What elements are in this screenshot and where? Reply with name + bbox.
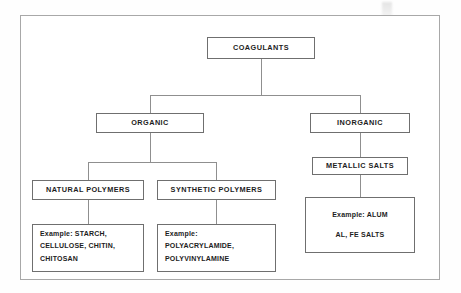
connector-organic-stem [150, 133, 151, 162]
node-synthetic-polymers-label: SYNTHETIC POLYMERS [171, 185, 263, 194]
connector-coagulants-stem [261, 59, 262, 95]
connector-level1-bar [150, 95, 361, 96]
example-inorganic-line-1: Example: ALUM [332, 211, 388, 220]
diagram-canvas: COAGULANTS ORGANIC INORGANIC METALLIC SA… [0, 0, 461, 293]
node-example-natural-polymers: Example: STARCH, CELLULOSE, CHITIN, CHIT… [32, 224, 144, 272]
connector-to-natural-polymers [88, 162, 89, 180]
node-metallic-salts-label: METALLIC SALTS [326, 161, 394, 170]
connector-metallic-salts-to-example [360, 175, 361, 197]
example-natural-line-1: Example: STARCH, [40, 230, 136, 239]
connector-to-synthetic-polymers [216, 162, 217, 180]
example-synthetic-line-3: POLYVINYLAMINE [165, 255, 268, 264]
example-synthetic-line-2: POLYACRYLAMIDE, [165, 242, 268, 251]
connector-to-inorganic [360, 95, 361, 113]
node-organic-label: ORGANIC [131, 118, 169, 127]
connector-natural-to-example [88, 200, 89, 224]
connector-synthetic-to-example [216, 200, 217, 224]
connector-organic-split-bar [88, 162, 217, 163]
example-natural-line-2: CELLULOSE, CHITIN, [40, 242, 136, 251]
node-natural-polymers: NATURAL POLYMERS [32, 180, 144, 200]
node-inorganic-label: INORGANIC [337, 118, 383, 127]
node-synthetic-polymers: SYNTHETIC POLYMERS [157, 180, 276, 200]
node-inorganic: INORGANIC [310, 113, 410, 133]
node-natural-polymers-label: NATURAL POLYMERS [46, 185, 130, 194]
node-example-inorganic: Example: ALUM AL, FE SALTS [305, 197, 415, 253]
node-coagulants-label: COAGULANTS [233, 43, 289, 52]
node-example-synthetic-polymers: Example: POLYACRYLAMIDE, POLYVINYLAMINE [157, 224, 276, 272]
node-coagulants: COAGULANTS [207, 37, 315, 59]
connector-inorganic-to-metallic-salts [360, 133, 361, 157]
example-inorganic-line-2: AL, FE SALTS [336, 231, 385, 240]
example-synthetic-line-1: Example: [165, 230, 268, 239]
example-natural-line-3: CHITOSAN [40, 255, 136, 264]
connector-to-organic [150, 95, 151, 113]
node-metallic-salts: METALLIC SALTS [312, 157, 408, 175]
node-organic: ORGANIC [96, 113, 204, 133]
